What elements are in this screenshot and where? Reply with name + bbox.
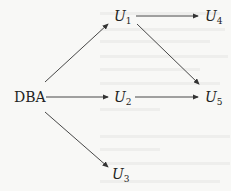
- node-label: U: [205, 8, 217, 24]
- node-label: U: [205, 89, 217, 105]
- node-u3: U3: [112, 167, 130, 186]
- node-u5: U5: [205, 90, 223, 109]
- node-dba: DBA: [14, 90, 46, 104]
- node-label: U: [114, 89, 126, 105]
- node-u4: U4: [205, 9, 223, 28]
- node-u1: U1: [114, 9, 132, 28]
- node-u2: U2: [114, 90, 132, 109]
- node-subscript: 4: [217, 16, 223, 26]
- edge-u1-u5: [137, 24, 199, 84]
- edge-dba-u3: [45, 112, 108, 167]
- node-subscript: 5: [217, 97, 223, 107]
- node-label: U: [112, 166, 124, 182]
- node-label: DBA: [14, 89, 46, 105]
- node-label: U: [114, 8, 126, 24]
- node-subscript: 1: [126, 16, 132, 26]
- node-subscript: 2: [126, 97, 132, 107]
- node-subscript: 3: [124, 174, 130, 184]
- edge-dba-u1: [45, 24, 108, 82]
